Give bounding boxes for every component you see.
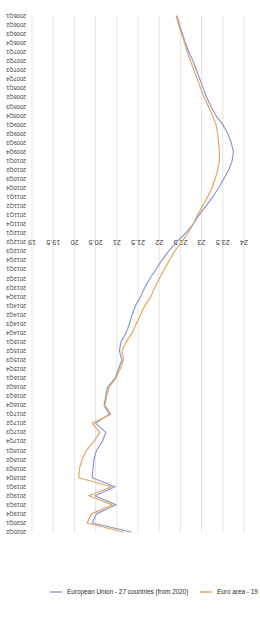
time-tick-label: 2013Q4 (6, 294, 26, 300)
time-tick-label: 2011Q3 (7, 212, 27, 218)
time-tick-label: 2019Q4 (6, 511, 26, 517)
series-line-euro19 (79, 16, 220, 532)
time-tick-label: 2019Q2 (6, 493, 26, 499)
legend-label-euro19: Euro area - 19 countries (from 2015) (217, 588, 260, 596)
time-tick-label: 2013Q3 (6, 285, 26, 291)
time-tick-label: 2010Q4 (6, 185, 26, 191)
time-tick-label: 2006Q2 (6, 22, 26, 28)
time-tick-label: 2014Q1 (6, 303, 26, 309)
time-tick-label: 2014Q3 (6, 321, 26, 327)
time-tick-label: 2007Q3 (6, 67, 26, 73)
line-chart: 2423.52322.52221.52120.52019.5192006Q120… (0, 0, 260, 638)
time-tick-label: 2009Q2 (6, 131, 26, 137)
value-tick-label: 23.5 (216, 238, 230, 247)
value-tick-label: 19 (28, 238, 36, 247)
legend-item[interactable]: Euro area - 19 countries (from 2015) (200, 588, 260, 596)
legend-item[interactable]: European Union - 27 countries (from 2020… (50, 588, 189, 596)
time-tick-label: 2009Q4 (6, 149, 26, 155)
value-tick-label: 22 (155, 238, 163, 247)
series-group (79, 16, 234, 532)
time-tick-label: 2008Q4 (6, 113, 26, 119)
time-tick-label: 2017Q3 (6, 429, 26, 435)
time-tick-label: 2006Q3 (6, 31, 26, 37)
time-tick-label: 2006Q1 (6, 13, 26, 19)
value-tick-label: 21.5 (131, 238, 145, 247)
time-tick-label: 2020Q2 (6, 529, 26, 535)
time-tick-label: 2015Q1 (6, 339, 26, 345)
value-axis-ticks: 2423.52322.52221.52120.52019.519 (28, 238, 248, 247)
time-tick-label: 2015Q4 (6, 366, 26, 372)
time-tick-label: 2016Q2 (6, 384, 26, 390)
time-tick-label: 2015Q2 (6, 348, 26, 354)
time-tick-label: 2017Q1 (6, 411, 26, 417)
time-tick-label: 2012Q4 (6, 257, 26, 263)
time-tick-label: 2020Q1 (6, 520, 26, 526)
time-tick-label: 2011Q2 (7, 203, 27, 209)
time-tick-label: 2016Q1 (6, 375, 26, 381)
legend-label-eu27: European Union - 27 countries (from 2020… (67, 588, 189, 596)
time-tick-label: 2007Q1 (6, 49, 26, 55)
time-tick-label: 2008Q2 (6, 94, 26, 100)
time-tick-label: 2010Q2 (6, 167, 26, 173)
time-tick-label: 2018Q1 (6, 448, 26, 454)
time-tick-label: 2017Q4 (6, 438, 26, 444)
value-tick-label: 23 (198, 238, 206, 247)
time-tick-label: 2016Q3 (6, 393, 26, 399)
time-tick-label: 2011Q1 (7, 194, 27, 200)
series-line-eu27 (92, 16, 233, 532)
chart-plot-area: 2423.52322.52221.52120.52019.5192006Q120… (0, 0, 260, 638)
time-tick-label: 2008Q1 (6, 85, 26, 91)
time-tick-label: 2013Q2 (6, 276, 26, 282)
time-tick-label: 2006Q4 (6, 40, 26, 46)
time-axis-ticks: 2006Q12006Q22006Q32006Q42007Q12007Q22007… (6, 13, 26, 535)
value-tick-label: 21 (113, 238, 121, 247)
legend: European Union - 27 countries (from 2020… (50, 588, 260, 596)
time-tick-label: 2009Q3 (6, 140, 26, 146)
chart-figure: 2423.52322.52221.52120.52019.5192006Q120… (0, 0, 260, 638)
time-tick-label: 2007Q4 (6, 76, 26, 82)
time-tick-label: 2019Q3 (6, 502, 26, 508)
time-tick-label: 2009Q1 (6, 122, 26, 128)
value-tick-label: 19.5 (46, 238, 60, 247)
value-tick-label: 20 (70, 238, 78, 247)
time-tick-label: 2019Q1 (6, 484, 26, 490)
time-tick-label: 2016Q4 (6, 402, 26, 408)
time-tick-label: 2014Q2 (6, 312, 26, 318)
time-tick-label: 2012Q2 (6, 239, 26, 245)
chart-rotation-container: 2423.52322.52221.52120.52019.5192006Q120… (0, 0, 260, 638)
time-tick-label: 2010Q3 (6, 176, 26, 182)
gridlines (32, 16, 244, 532)
time-tick-label: 2015Q3 (6, 357, 26, 363)
time-tick-label: 2010Q1 (6, 158, 26, 164)
time-tick-label: 2018Q4 (6, 475, 26, 481)
time-tick-label: 2007Q2 (6, 58, 26, 64)
time-tick-label: 2018Q2 (6, 457, 26, 463)
value-tick-label: 20.5 (89, 238, 103, 247)
time-tick-label: 2012Q3 (6, 248, 26, 254)
time-tick-label: 2011Q4 (7, 221, 27, 227)
time-tick-label: 2012Q1 (6, 230, 26, 236)
value-tick-label: 24 (240, 238, 248, 247)
time-tick-label: 2008Q3 (6, 104, 26, 110)
time-tick-label: 2013Q1 (6, 266, 26, 272)
time-tick-label: 2018Q3 (6, 466, 26, 472)
time-tick-label: 2014Q4 (6, 330, 26, 336)
time-tick-label: 2017Q2 (6, 420, 26, 426)
